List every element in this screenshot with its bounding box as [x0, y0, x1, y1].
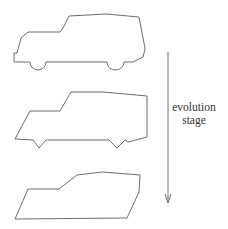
car-stage-1: [14, 14, 145, 70]
car-stage-3: [15, 172, 140, 219]
arrow-label-line1: evolution: [164, 101, 224, 114]
arrow-label-line2: stage: [164, 114, 224, 127]
arrow-label: evolution stage: [164, 101, 224, 127]
car-stage-2: [15, 92, 147, 148]
